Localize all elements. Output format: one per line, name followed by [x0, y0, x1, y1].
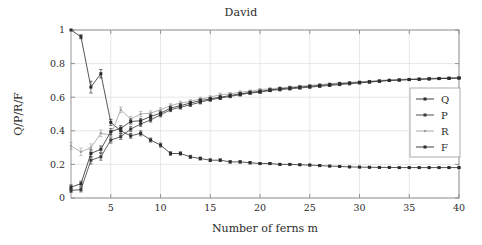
x-tick-label: 10 — [154, 202, 166, 213]
plot-canvas: 510152025303540 00.20.40.60.81 QPRF Numb… — [0, 0, 482, 245]
x-tick-label: 20 — [254, 202, 266, 213]
x-tick-labels: 510152025303540 — [108, 202, 465, 213]
chart-legend[interactable]: QPRF — [410, 88, 460, 157]
x-tick-label: 40 — [453, 202, 465, 213]
axes — [71, 30, 459, 198]
y-tick-label: 0.8 — [50, 58, 65, 69]
x-tick-label: 25 — [304, 202, 316, 213]
x-axis-title: Number of ferns m — [212, 222, 319, 235]
x-tick-label: 35 — [403, 202, 415, 213]
x-tick-label: 5 — [108, 202, 114, 213]
y-tick-label: 0 — [59, 192, 65, 203]
y-tick-labels: 00.20.40.60.81 — [50, 24, 65, 203]
y-tick-label: 0.6 — [50, 92, 65, 103]
y-tick-label: 1 — [59, 24, 65, 35]
series-f — [69, 77, 460, 190]
y-tick-label: 0.2 — [50, 159, 65, 170]
series-q — [70, 29, 461, 170]
legend-label-f: F — [441, 142, 448, 153]
legend-label-q: Q — [441, 94, 449, 105]
legend-label-r: R — [441, 126, 449, 137]
series-r — [69, 76, 460, 155]
tick-marks — [71, 30, 459, 198]
x-tick-label: 15 — [204, 202, 216, 213]
y-tick-label: 0.4 — [50, 125, 65, 136]
x-tick-label: 30 — [353, 202, 365, 213]
legend-label-p: P — [441, 110, 448, 121]
data-series-layer — [69, 29, 460, 193]
chart-figure: David 510152025303540 00.20.40.60.81 QPR… — [0, 0, 482, 245]
y-axis-title: Q/P/R/F — [12, 92, 25, 136]
gridlines — [71, 30, 459, 198]
